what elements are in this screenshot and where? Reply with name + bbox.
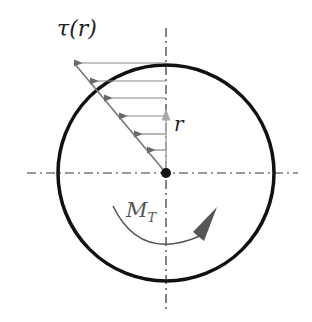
diagram-graphics	[0, 0, 312, 322]
shear-stress-arrows	[82, 63, 166, 150]
torsion-diagram: τ(r) r MT	[0, 0, 312, 322]
torque-label: MT	[126, 198, 156, 225]
shear-stress-label: τ(r)	[57, 16, 97, 41]
torque-label-main: M	[126, 198, 148, 222]
torque-arrowhead-icon	[193, 207, 217, 241]
radius-label: r	[174, 112, 184, 136]
torque-label-sub: T	[148, 210, 157, 225]
stress-envelope-line	[74, 63, 166, 173]
center-point	[161, 168, 171, 178]
